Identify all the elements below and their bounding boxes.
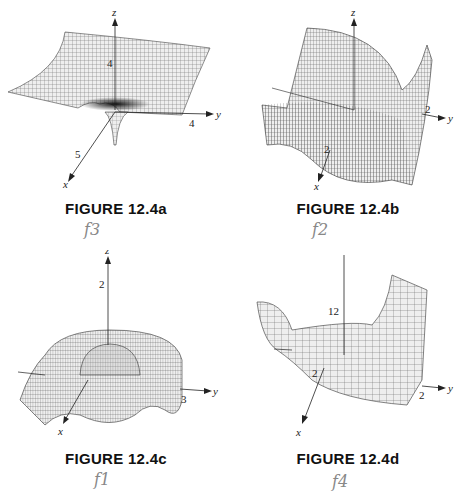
y-axis-label: y [447, 112, 453, 124]
y-axis-label: y [447, 382, 453, 394]
figure-d: y x 12 2 2 FIGURE 12.4d f4 [232, 250, 464, 495]
y-tick-label: 4 [189, 117, 195, 129]
z-tick-label: 2 [99, 278, 105, 290]
handwritten-note-a: f3 [84, 220, 100, 239]
x-tick-label: 2 [312, 367, 318, 379]
figure-caption-a: FIGURE 12.4a [0, 200, 232, 217]
x-axis-label: x [313, 180, 319, 192]
handwritten-note-d: f4 [332, 472, 348, 491]
z-axis-label: z [350, 6, 356, 18]
x-tick-label: 2 [324, 143, 330, 155]
y-tick-label: 2 [419, 389, 425, 401]
handwritten-note-c: f1 [94, 470, 110, 489]
surface-plot-b: z y x 2 2 [232, 0, 464, 195]
handwritten-note-b: f2 [312, 220, 328, 239]
surface-plot-d: y x 12 2 2 [232, 250, 464, 450]
y-axis-label: y [215, 108, 221, 120]
figure-caption-d: FIGURE 12.4d [232, 450, 464, 467]
z-tick-label: 12 [328, 305, 339, 317]
figure-a: z y x 4 4 5 FIGURE 12.4a f3 [0, 0, 232, 245]
z-axis-label: z [111, 6, 117, 18]
figure-c: z y x 2 3 FIGURE 12.4c f1 [0, 250, 232, 495]
z-axis-label: z [104, 250, 110, 256]
figure-b: z y x 2 2 FIGURE 12.4b f2 [232, 0, 464, 245]
x-tick-label: 5 [75, 148, 81, 160]
y-tick-label: 2 [425, 103, 431, 115]
surface-plot-a: z y x 4 4 5 [0, 0, 232, 195]
y-axis-label: y [212, 385, 218, 397]
x-axis-label: x [62, 178, 68, 190]
figure-caption-c: FIGURE 12.4c [0, 450, 232, 467]
x-axis-label: x [295, 426, 301, 438]
z-tick-label: 4 [107, 57, 113, 69]
x-axis-label: x [57, 425, 63, 437]
y-tick-label: 3 [181, 393, 187, 405]
surface-plot-c: z y x 2 3 [0, 250, 232, 450]
figure-caption-b: FIGURE 12.4b [232, 200, 464, 217]
